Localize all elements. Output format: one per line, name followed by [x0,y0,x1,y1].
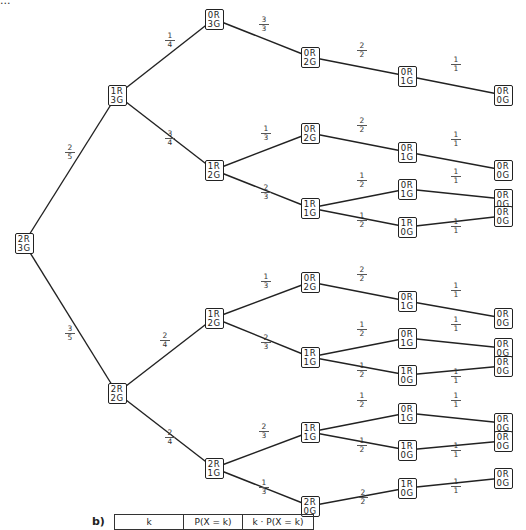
denominator: 3 [259,488,269,496]
tree-node: 0R0G [494,431,513,452]
node-count: 2G [206,319,223,328]
tree-node: 1R0G [398,365,417,386]
probability-fraction: 11 [451,392,461,409]
node-count: 1G [302,358,319,367]
tree-node: 0R1G [398,142,417,163]
tree-node: 0R2G [301,272,320,293]
tree-edge [310,282,407,301]
node-count: 0G [495,479,512,488]
probability-fraction: 11 [451,442,461,459]
probability-fraction: 11 [451,218,461,235]
tree-edge [310,338,407,357]
probability-fraction: 13 [261,125,271,142]
denominator: 1 [451,65,461,73]
tree-node: 0R1G [398,291,417,312]
node-count: 0G [399,228,416,237]
tree-node: 1R0G [398,478,417,499]
probability-fraction: 12 [357,212,367,229]
tree-node: 0R1G [398,403,417,424]
tree-node: 2R3G [15,233,34,254]
node-count: 0G [399,489,416,498]
probability-fraction: 25 [65,144,75,161]
tree-edge [117,318,214,393]
probability-fraction: 23 [259,423,269,440]
probability-fraction: 11 [451,478,461,495]
denominator: 3 [259,432,269,440]
tree-edge [310,189,407,208]
tree-node: 0R0G [494,356,513,377]
tree-node: 0R0G [494,308,513,329]
probability-fraction: 22 [357,42,367,59]
probability-fraction: 12 [357,172,367,189]
node-count: 1G [399,190,416,199]
denominator: 2 [357,401,367,409]
tree-node: 0R0G [494,468,513,489]
denominator: 2 [357,126,367,134]
denominator: 2 [357,446,367,454]
part-b-label: b) [92,515,105,528]
probability-fraction: 33 [259,16,269,33]
probability-fraction: 12 [357,362,367,379]
probability-fraction: 14 [165,32,175,49]
probability-fraction: 35 [65,325,75,342]
node-count: 2G [109,394,126,403]
probability-fraction: 11 [451,368,461,385]
tree-node: 1R1G [301,422,320,443]
node-count: 3G [16,244,33,253]
node-count: 1G [399,302,416,311]
probability-fraction: 13 [261,273,271,290]
node-count: 1G [302,433,319,442]
node-count: 0G [495,319,512,328]
tree-edge [310,57,407,76]
tree-edge [117,19,214,95]
tree-node: 0R1G [398,66,417,87]
probability-fraction: 12 [357,321,367,338]
tree-edge [24,243,117,393]
tree-node: 0R0G [494,85,513,106]
node-count: 3G [206,20,223,29]
tree-node: 1R2G [205,160,224,181]
denominator: 3 [259,25,269,33]
node-count: 0G [495,171,512,180]
probability-fraction: 22 [358,489,368,506]
probability-fraction: 23 [261,184,271,201]
tree-edge [24,95,117,243]
denominator: 2 [357,330,367,338]
tree-edge [407,76,503,95]
probability-fraction: 11 [451,282,461,299]
denominator: 3 [261,193,271,201]
expectation-table: k P(X = k) k · P(X = k) [114,514,314,530]
node-count: 0G [399,376,416,385]
tree-node: 1R0G [398,217,417,238]
probability-fraction: 34 [165,130,175,147]
node-count: 0G [495,442,512,451]
tree-node: 1R3G [108,85,127,106]
tree-node: 1R0G [398,440,417,461]
tree-node: 0R2G [301,47,320,68]
denominator: 5 [65,153,75,161]
node-count: 0G [495,367,512,376]
tree-node: 0R0G [494,206,513,227]
denominator: 3 [261,282,271,290]
node-count: 1G [302,209,319,218]
tree-node: 0R0G [494,160,513,181]
denominator: 1 [451,401,461,409]
tree-edge [310,413,407,432]
node-count: 2G [206,171,223,180]
probability-fraction: 24 [165,429,175,446]
denominator: 1 [451,140,461,148]
probability-fraction: 11 [451,168,461,185]
tree-edge [310,133,407,152]
tree-edge [407,413,503,423]
probability-fraction: 22 [357,117,367,134]
denominator: 2 [357,181,367,189]
denominator: 5 [65,334,75,342]
denominator: 1 [451,377,461,385]
node-count: 0G [495,96,512,105]
denominator: 3 [261,343,271,351]
denominator: 1 [451,325,461,333]
probability-fraction: 22 [357,266,367,283]
denominator: 1 [451,227,461,235]
denominator: 4 [165,438,175,446]
